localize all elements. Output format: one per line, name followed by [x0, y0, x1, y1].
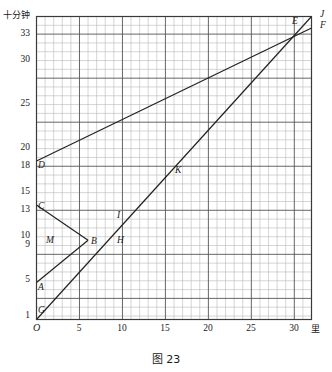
point-label-E: E	[292, 16, 298, 26]
point-label-I: I	[117, 210, 120, 220]
x-tick-15: 15	[155, 323, 175, 333]
graph-plot-area	[0, 0, 332, 372]
y-tick-30: 30	[8, 54, 30, 64]
y-tick-20: 20	[8, 142, 30, 152]
figure-container: 十分钟	[0, 0, 332, 372]
figure-caption: 图 23	[0, 350, 332, 366]
y-tick-5: 5	[8, 274, 30, 284]
x-tick-10: 10	[112, 323, 132, 333]
x-tick-30: 30	[284, 323, 304, 333]
point-label-H: H	[117, 235, 124, 245]
x-axis-unit-label: 里	[311, 322, 320, 335]
y-tick-1: 1	[8, 310, 30, 320]
point-label-D: D	[38, 160, 45, 170]
point-label-F: F	[320, 20, 326, 30]
y-tick-18: 18	[8, 160, 30, 170]
y-tick-15: 15	[8, 186, 30, 196]
y-tick-33: 33	[8, 28, 30, 38]
x-tick-origin: O	[33, 322, 40, 333]
y-tick-13: 13	[8, 204, 30, 214]
point-label-J: J	[320, 9, 324, 19]
x-tick-25: 25	[241, 323, 261, 333]
point-label-K: K	[175, 165, 181, 175]
point-label-B: B	[91, 236, 97, 246]
point-label-M: M	[46, 235, 54, 245]
point-label-G: G	[38, 305, 45, 315]
y-tick-9: 9	[8, 239, 30, 249]
x-tick-5: 5	[69, 323, 89, 333]
point-label-C: C	[38, 201, 44, 211]
point-label-A: A	[38, 282, 44, 292]
x-tick-20: 20	[198, 323, 218, 333]
y-tick-25: 25	[8, 98, 30, 108]
